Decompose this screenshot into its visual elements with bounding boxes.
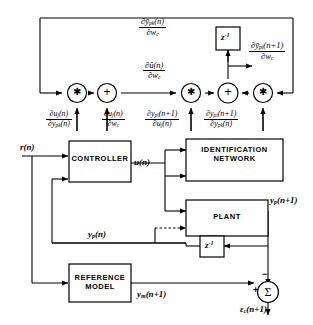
derivative-duj-dwc-denominator: ∂wc — [102, 119, 125, 129]
sum-left-operator[interactable]: + — [100, 86, 114, 98]
plant-output-next-label: yp(n+1) — [270, 196, 298, 206]
derivative-dypi-next-duj-numerator: ∂ypi(n+1) — [145, 110, 179, 119]
derivative-duj-dypk-denominator: ∂ypk(n) — [46, 119, 72, 129]
sum-mid-operator[interactable]: + — [221, 85, 235, 98]
reference-model-label: REFERENCE MODEL — [69, 274, 131, 291]
error-signal-label: εc(n+1) — [240, 305, 267, 315]
derivative-duj-dwc: ∂uj(n) ∂wc — [102, 110, 125, 129]
identification-network-label: IDENTIFICATION NETWORK — [186, 146, 283, 163]
model-output-label: ym(n+1) — [137, 290, 166, 300]
summing-junction-operator[interactable]: Σ — [261, 286, 275, 298]
derivative-dypi-next-dwc: ∂ȳpi(n+1) ∂wc — [249, 41, 285, 63]
derivative-du-dwc-denominator: ∂wc — [143, 70, 165, 81]
plant-output-label: yp(n) — [88, 230, 106, 240]
derivative-dypi-next-dypk: ∂ypi(n+1) ∂ypk(n) — [204, 110, 238, 129]
delay-top-label: z-1 — [221, 32, 229, 42]
derivative-dypi-next-duj: ∂ypi(n+1) ∂uj(n) — [145, 110, 179, 129]
derivative-dypk-dwc-numerator: ∂ȳpk(n) — [139, 17, 166, 27]
derivative-duj-dypk: ∂uj(n) ∂ypk(n) — [46, 110, 72, 129]
derivative-duj-dwc-numerator: ∂uj(n) — [102, 110, 125, 119]
derivative-dypi-next-dwc-numerator: ∂ȳpi(n+1) — [249, 41, 285, 51]
derivative-dypi-next-dwc-denominator: ∂wc — [249, 51, 285, 62]
derivative-dypi-next-duj-denominator: ∂uj(n) — [145, 119, 179, 129]
derivative-dypk-dwc: ∂ȳpk(n) ∂wc — [139, 17, 166, 39]
derivative-dypi-next-dypk-numerator: ∂ypi(n+1) — [204, 110, 238, 119]
control-signal-label: u(n) — [134, 158, 150, 167]
reference-input-label: r(n) — [20, 143, 35, 152]
derivative-dypi-next-dypk-denominator: ∂ypk(n) — [204, 119, 238, 129]
mult-left-operator[interactable]: ✱ — [70, 87, 84, 97]
summing-junction-minus-sign: − — [262, 270, 267, 279]
identification-network-line2: NETWORK — [213, 154, 255, 163]
reference-model-line2: MODEL — [85, 282, 115, 291]
controller-label: CONTROLLER — [69, 155, 131, 164]
derivative-dypk-dwc-denominator: ∂wc — [139, 27, 166, 38]
derivative-duj-dypk-numerator: ∂uj(n) — [46, 110, 72, 119]
mult-mid-operator[interactable]: ✱ — [184, 87, 198, 97]
mult-right-operator[interactable]: ✱ — [256, 87, 270, 97]
derivative-du-dwc: ∂ū(n) ∂wc — [143, 61, 165, 81]
derivative-du-dwc-numerator: ∂ū(n) — [143, 61, 165, 70]
plant-label: PLANT — [186, 213, 268, 222]
summing-junction-plus-sign: + — [253, 286, 258, 295]
delay-bottom-label: z-1 — [205, 240, 213, 250]
block-diagram-canvas: ∂ȳpk(n) ∂wc ∂ū(n) ∂wc ∂ȳpi(n+1) ∂wc ∂uj(… — [0, 0, 313, 325]
